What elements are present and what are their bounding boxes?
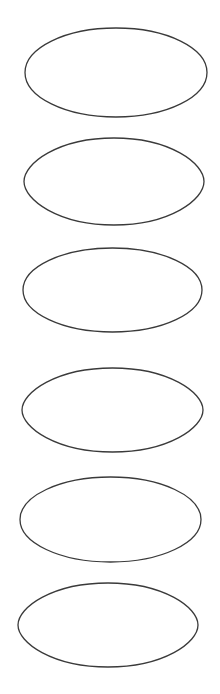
oval-outline-3: [23, 248, 202, 332]
oval-outline-2: [24, 138, 204, 225]
oval-outline-5: [20, 477, 201, 562]
oval-outline-1: [25, 28, 207, 117]
shape-canvas: [0, 0, 220, 694]
oval-outlines-group: [18, 28, 207, 667]
oval-outline-6: [18, 583, 198, 667]
oval-outline-4: [22, 368, 203, 452]
